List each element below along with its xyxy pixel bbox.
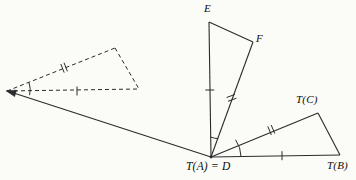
triangle-def [205,22,253,157]
segment-D-TC [211,113,318,157]
tick-mark-double-dashed-left-top [61,63,68,73]
triangle-image-tb-tc [211,113,340,160]
vertex-dot-D [210,156,213,159]
angle-arc-at-D-left [211,137,219,139]
figure-canvas [0,0,356,180]
dashed-triangle [7,48,139,96]
segment-dashed-top-right [115,48,139,89]
tick-mark-double-FD [227,94,237,101]
angle-arc-at-D-right [236,140,241,157]
angle-arc-dashed-left-vertex [29,83,30,96]
segment-E-F [209,22,253,42]
segment-dashed-left-top [7,48,115,91]
segment-D-TB [211,155,340,157]
label-point-T-of-C: T(C) [296,94,318,105]
geometry-figure: E F T(C) T(B) T(A) = D [0,0,356,180]
label-point-T-of-A-equals-D: T(A) = D [186,161,231,173]
label-point-E: E [204,3,211,14]
mapping-arrow [6,90,211,157]
label-point-T-of-B: T(B) [327,160,348,171]
segment-dashed-left-right [7,89,139,91]
segment-TC-TB [318,113,340,155]
label-point-F: F [256,33,263,44]
